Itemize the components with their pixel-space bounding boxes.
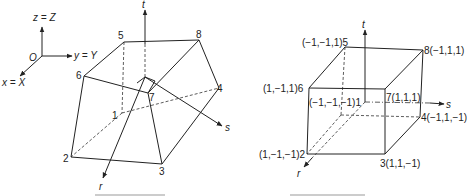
edge-5-1 <box>122 42 124 113</box>
right-caption-remnant <box>290 194 365 196</box>
node-7-label: 7 <box>149 92 155 103</box>
node-3-label: 3(1,1,−1) <box>380 158 420 169</box>
y-axis-label: y = Y <box>73 50 98 61</box>
node-8-label: 8 <box>196 29 202 40</box>
r-axis-arrow-icon <box>304 158 312 167</box>
node-7-label: 7(1,1,1) <box>386 92 420 103</box>
r-axis-label: r <box>297 168 301 179</box>
edge-7-3 <box>148 93 162 164</box>
left-caption-remnant <box>95 194 165 196</box>
r-axis-label: r <box>99 181 103 192</box>
node-6-label: 6 <box>76 70 82 81</box>
s-axis-arrow-icon <box>145 77 222 126</box>
node-5-label: (−1,−1,1)5 <box>302 37 349 48</box>
r-axis-arrow-icon <box>103 77 145 178</box>
edge-1-4 <box>341 115 420 117</box>
z-axis-label: z = Z <box>32 12 56 23</box>
edge-6-7 <box>309 88 385 89</box>
s-axis-label: s <box>225 122 230 133</box>
edge-7-8 <box>148 40 199 93</box>
edge-6-7 <box>84 76 148 93</box>
t-axis-label: t <box>362 19 366 30</box>
node-4-label: 4(−1,1,−1) <box>421 112 467 123</box>
parent-cube-element: t s r (−1,−1,−1)1 (1,−1,−1)2 3(1,1,−1) 4… <box>259 19 467 179</box>
distorted-element: t s r 1 2 3 4 5 6 7 8 <box>63 0 230 192</box>
node-5-label: 5 <box>118 30 124 41</box>
s-axis-label: s <box>446 99 451 110</box>
edge-1-2 <box>307 115 341 154</box>
node-8-label: 8(−1,1,1) <box>424 45 464 56</box>
origin-label: O <box>29 52 37 63</box>
node-1-label: 1 <box>112 110 118 121</box>
x-axis-label: x = X <box>1 77 25 88</box>
node-4-label: 4 <box>217 83 223 94</box>
node-2-label: (1,−1,−1)2 <box>259 149 306 160</box>
node-2-label: 2 <box>63 153 69 164</box>
s-axis-arrow-icon <box>430 103 444 104</box>
t-axis-label: t <box>142 0 146 10</box>
node-6-label: (1,−1,1)6 <box>263 83 304 94</box>
node-1-label: (−1,−1,−1)1 <box>309 97 361 108</box>
diagram-canvas: z = Z O y = Y x = X t s r 1 2 3 4 5 6 7 … <box>0 0 467 196</box>
node-3-label: 3 <box>159 166 165 177</box>
edge-7-8 <box>385 50 423 89</box>
edge-1-4 <box>122 88 219 113</box>
